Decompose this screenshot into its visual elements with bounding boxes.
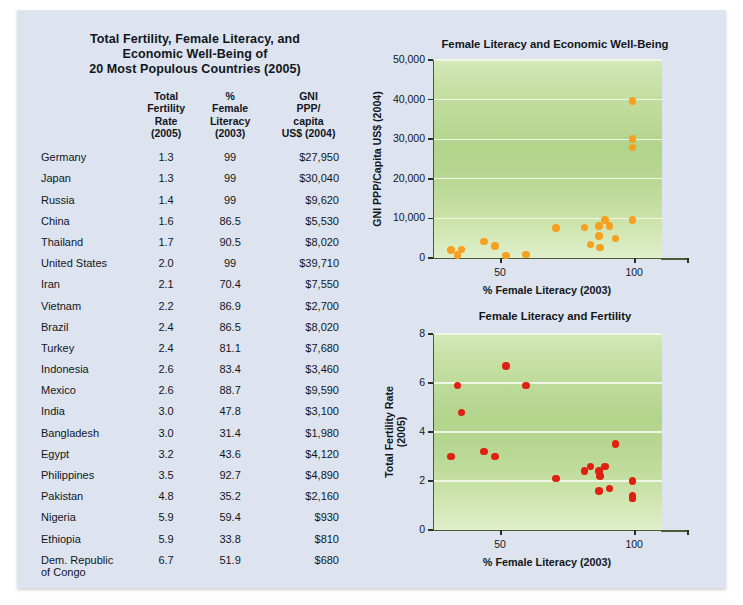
tfr-head-line-1: Total <box>134 90 198 102</box>
cell-country: Germany <box>35 147 134 168</box>
y-tick-mark <box>428 138 433 140</box>
y-tick-mark <box>428 480 433 482</box>
cell-female-literacy: 99 <box>198 168 262 189</box>
cell-country: Turkey <box>35 337 134 358</box>
literacy-head-line-1: % <box>198 90 262 102</box>
cell-gni-ppp-capita: $7,550 <box>262 274 355 295</box>
table-row: Japan1.399$30,040 <box>35 168 355 189</box>
cell-gni-ppp-capita: $27,950 <box>262 147 355 168</box>
table-row: Turkey2.481.1$7,680 <box>35 337 355 358</box>
cell-total-fertility-rate: 3.2 <box>134 443 198 464</box>
data-point <box>629 477 637 485</box>
data-point <box>601 463 609 471</box>
y-tick-label: 30,000 <box>373 132 425 144</box>
cell-total-fertility-rate: 3.0 <box>134 401 198 422</box>
chart-fertility: Female Literacy and Fertility Total Fert… <box>369 310 717 582</box>
data-point <box>606 222 614 230</box>
cell-country: Japan <box>35 168 134 189</box>
data-point <box>612 440 620 448</box>
cell-total-fertility-rate: 1.3 <box>134 147 198 168</box>
cell-gni-ppp-capita: $30,040 <box>262 168 355 189</box>
data-point <box>454 382 462 390</box>
x-tick-label: 50 <box>480 266 520 278</box>
tfr-head-line-2: Fertility <box>134 102 198 114</box>
y-tick-label: 8 <box>373 327 425 339</box>
y-tick-label: 0 <box>373 251 425 263</box>
y-tick-label: 10,000 <box>373 211 425 223</box>
table-body: Germany1.399$27,950Japan1.399$30,040Russ… <box>35 147 355 583</box>
table-row: Nigeria5.959.4$930 <box>35 507 355 528</box>
cell-country: Thailand <box>35 231 134 252</box>
cell-gni-ppp-capita: $2,700 <box>262 295 355 316</box>
x-axis-extension <box>661 530 687 532</box>
economic-plot-area <box>433 60 662 259</box>
y-tick-mark <box>428 218 433 220</box>
cell-female-literacy: 90.5 <box>198 231 262 252</box>
figure-page: Total Fertility, Female Literacy, and Ec… <box>17 10 726 588</box>
x-tick-label: 100 <box>614 266 654 278</box>
table-row: Pakistan4.835.2$2,160 <box>35 486 355 507</box>
table-row: United States2.099$39,710 <box>35 253 355 274</box>
data-table-panel: Total Fertility, Female Literacy, and Ec… <box>35 32 355 582</box>
data-point <box>596 244 604 252</box>
literacy-head-line-4: (2003) <box>198 127 262 139</box>
table-row: China1.686.5$5,530 <box>35 210 355 231</box>
data-point <box>587 241 595 249</box>
data-point <box>629 135 637 143</box>
x-tick-mark <box>634 530 636 535</box>
economic-x-axis-label: % Female Literacy (2003) <box>413 284 681 296</box>
cell-female-literacy: 47.8 <box>198 401 262 422</box>
data-point <box>587 463 595 471</box>
table-header-row: Total Fertility Rate (2005) % Female Lit… <box>35 90 355 147</box>
y-tick-label: 6 <box>373 376 425 388</box>
cell-gni-ppp-capita: $9,590 <box>262 380 355 401</box>
cell-country: Ethiopia <box>35 528 134 549</box>
cell-gni-ppp-capita: $1,980 <box>262 422 355 443</box>
cell-total-fertility-rate: 2.2 <box>134 295 198 316</box>
cell-total-fertility-rate: 2.4 <box>134 316 198 337</box>
cell-female-literacy: 43.6 <box>198 443 262 464</box>
cell-country: China <box>35 210 134 231</box>
cell-female-literacy: 59.4 <box>198 507 262 528</box>
table-row: Ethiopia5.933.8$810 <box>35 528 355 549</box>
cell-total-fertility-rate: 3.0 <box>134 422 198 443</box>
country-statistics-table: Total Fertility Rate (2005) % Female Lit… <box>35 90 355 582</box>
cell-female-literacy: 83.4 <box>198 359 262 380</box>
y-tick-label: 2 <box>373 474 425 486</box>
cell-country: Egypt <box>35 443 134 464</box>
table-row: Brazil2.486.5$8,020 <box>35 316 355 337</box>
tfr-head-line-3: Rate <box>134 115 198 127</box>
data-point <box>612 235 620 243</box>
x-axis-end-cap <box>687 530 689 535</box>
y-tick-mark <box>428 257 433 259</box>
cell-female-literacy: 86.5 <box>198 210 262 231</box>
table-row: Iran2.170.4$7,550 <box>35 274 355 295</box>
cell-female-literacy: 51.9 <box>198 549 262 582</box>
y-tick-label: 4 <box>373 425 425 437</box>
x-tick-mark <box>500 258 502 263</box>
column-header-female-literacy: % Female Literacy (2003) <box>198 90 262 147</box>
table-row: India3.047.8$3,100 <box>35 401 355 422</box>
cell-total-fertility-rate: 5.9 <box>134 507 198 528</box>
gridline <box>434 99 662 100</box>
cell-female-literacy: 99 <box>198 189 262 210</box>
y-tick-mark <box>428 333 433 335</box>
cell-female-literacy: 99 <box>198 253 262 274</box>
y-tick-mark <box>428 178 433 180</box>
gridline <box>434 218 662 219</box>
table-row: Vietnam2.286.9$2,700 <box>35 295 355 316</box>
x-tick-label: 100 <box>614 538 654 550</box>
table-title-line-2: Economic Well-Being of <box>35 47 355 62</box>
literacy-head-line-3: Literacy <box>198 115 262 127</box>
data-point <box>595 232 603 240</box>
cell-total-fertility-rate: 5.9 <box>134 528 198 549</box>
data-point <box>581 224 589 232</box>
table-row: Thailand1.790.5$8,020 <box>35 231 355 252</box>
cell-country: Indonesia <box>35 359 134 380</box>
data-point <box>491 242 499 250</box>
cell-gni-ppp-capita: $3,100 <box>262 401 355 422</box>
literacy-head-line-2: Female <box>198 102 262 114</box>
cell-gni-ppp-capita: $9,620 <box>262 189 355 210</box>
data-point <box>454 251 462 259</box>
gridline <box>434 139 662 140</box>
